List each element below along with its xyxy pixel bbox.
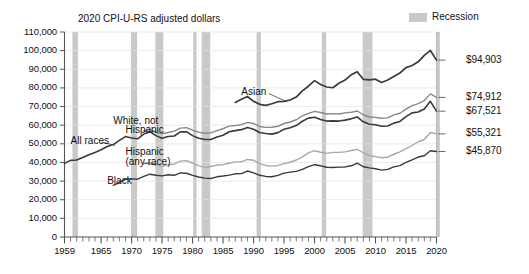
y-tick-marks-group xyxy=(60,32,65,237)
y-tick-label: 50,000 xyxy=(5,137,57,148)
y-tick-label: 90,000 xyxy=(5,63,57,74)
axis-lines-group xyxy=(65,32,437,237)
recession-band xyxy=(193,32,196,237)
y-tick-label: 80,000 xyxy=(5,81,57,92)
recession-band xyxy=(202,32,211,237)
y-tick-label: 70,000 xyxy=(5,100,57,111)
y-tick-label: 30,000 xyxy=(5,175,57,186)
series-annotation: Black xyxy=(107,175,131,187)
x-tick-label: 1959 xyxy=(45,245,85,256)
series-line xyxy=(235,50,436,105)
series-end-label: $55,321 xyxy=(466,127,501,138)
y-tick-label: 40,000 xyxy=(5,156,57,167)
series-end-label: $67,521 xyxy=(466,105,501,116)
recession-band xyxy=(363,32,373,237)
y-tick-label: 60,000 xyxy=(5,119,57,130)
chart-figure: 2020 CPI-U-RS adjusted dollars Recession… xyxy=(0,0,529,274)
y-tick-label: 10,000 xyxy=(5,212,57,223)
series-annotation: (any race) xyxy=(125,156,170,168)
x-tick-label: 2020 xyxy=(417,245,457,256)
series-annotation: Hispanic xyxy=(125,124,163,136)
series-end-label: $74,912 xyxy=(466,91,501,102)
series-line xyxy=(65,101,437,163)
series-end-label: $94,903 xyxy=(466,54,501,65)
recession-band xyxy=(257,32,261,237)
recession-band xyxy=(437,32,440,237)
y-tick-label: 100,000 xyxy=(5,44,57,55)
series-annotation: All races xyxy=(71,135,109,147)
recession-band xyxy=(322,32,326,237)
y-tick-label: 20,000 xyxy=(5,193,57,204)
x-tick-marks-group xyxy=(65,237,437,244)
y-tick-label: 110,000 xyxy=(5,26,57,37)
series-end-label: $45,870 xyxy=(466,145,501,156)
series-annotation: Asian xyxy=(241,86,266,98)
y-tick-label: 0 xyxy=(5,231,57,242)
annotation-leader xyxy=(269,94,287,102)
